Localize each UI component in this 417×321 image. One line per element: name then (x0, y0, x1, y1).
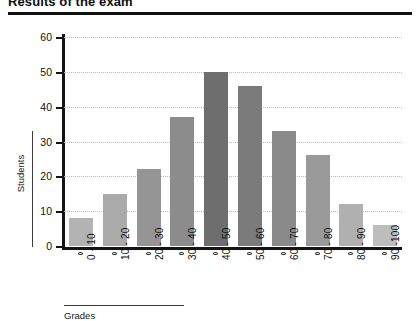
x-tick-label: 0 - 10 (86, 233, 97, 260)
x-axis-label: Grades (64, 310, 95, 321)
x-axis-label-rule (64, 305, 184, 306)
y-tick-mark (56, 246, 63, 248)
y-tick-label: 50 (40, 66, 52, 78)
y-tick-label: 10 (40, 205, 52, 217)
x-axis-spine (62, 247, 402, 250)
y-axis-label-rule (32, 131, 33, 247)
y-tick-mark (56, 107, 63, 109)
bar (238, 86, 262, 246)
chart-figure: Students 0102030405060 0 - 1010 - 2020 -… (0, 18, 417, 315)
x-tick-mark (315, 252, 320, 255)
x-tick-mark (382, 252, 387, 255)
x-tick-mark (78, 252, 83, 255)
x-tick-mark (348, 252, 353, 255)
bar-series (64, 37, 402, 246)
x-tick-mark (179, 252, 184, 255)
x-tick-label: 70 - 80 (323, 227, 334, 260)
y-tick-label: 20 (40, 170, 52, 182)
x-tick-mark (213, 252, 218, 255)
x-tick-mark (112, 252, 117, 255)
y-tick-mark (56, 37, 63, 39)
y-tick-mark (56, 142, 63, 144)
y-tick-mark (56, 176, 63, 178)
x-tick-label: 40 - 50 (221, 227, 232, 260)
x-tick-mark (146, 252, 151, 255)
x-tick-label: 50 - 60 (255, 227, 266, 260)
y-tick-label: 40 (40, 101, 52, 113)
y-tick-label: 30 (40, 136, 52, 148)
x-tick-mark (247, 252, 252, 255)
x-tick-label: 10 - 20 (120, 227, 131, 260)
x-tick-label: 30 - 40 (187, 227, 198, 260)
y-axis-label: Students (15, 139, 26, 209)
x-tick-label: 90 -100 (390, 225, 401, 260)
page-title: Results of the exam (8, 0, 133, 9)
x-tick-mark (281, 252, 286, 255)
x-tick-label: 60 - 70 (289, 227, 300, 260)
x-tick-label: 80 - 90 (356, 227, 367, 260)
bar (204, 72, 228, 246)
y-tick-mark (56, 211, 63, 213)
y-tick-label: 0 (46, 240, 52, 252)
plot-area: 0102030405060 (64, 37, 402, 246)
title-divider (8, 12, 412, 15)
y-tick-label: 60 (40, 31, 52, 43)
x-tick-label: 20 - 30 (154, 227, 165, 260)
y-tick-mark (56, 72, 63, 74)
